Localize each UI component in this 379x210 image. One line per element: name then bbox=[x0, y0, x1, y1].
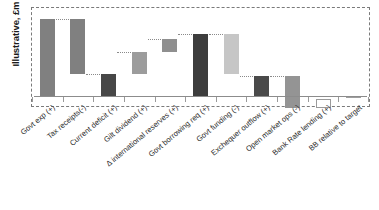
bar-6 bbox=[224, 34, 239, 75]
x-tick-10 bbox=[338, 97, 339, 102]
bar-5 bbox=[193, 34, 208, 97]
x-label-6: Govt funding (-) bbox=[195, 103, 241, 144]
x-label-1: Tax receipts(-) bbox=[45, 103, 88, 141]
x-label-10: BB relative to target bbox=[307, 103, 364, 153]
connector-0 bbox=[56, 19, 70, 20]
bar-8 bbox=[285, 76, 300, 108]
bar-9 bbox=[316, 99, 331, 108]
plot-area bbox=[32, 8, 369, 106]
x-tick-8 bbox=[277, 97, 278, 102]
x-tick-7 bbox=[246, 97, 247, 102]
bar-0 bbox=[40, 19, 55, 97]
plot-frame bbox=[31, 7, 370, 107]
x-tick-4 bbox=[155, 97, 156, 102]
x-tick-9 bbox=[308, 97, 309, 102]
connector-3 bbox=[148, 39, 162, 40]
x-label-5: Govt borrowing req (+) bbox=[146, 103, 210, 159]
x-label-9: Bank Rate lending (+) bbox=[271, 103, 333, 157]
x-tick-1 bbox=[63, 97, 64, 102]
bar-1 bbox=[70, 19, 85, 74]
waterfall-chart: Illustrative, £m Govt exp (+)Tax receipt… bbox=[0, 0, 379, 210]
y-axis-title: Illustrative, £m bbox=[8, 0, 24, 80]
x-label-0: Govt exp (+) bbox=[19, 103, 57, 137]
x-tick-5 bbox=[185, 97, 186, 102]
x-tick-6 bbox=[216, 97, 217, 102]
x-tick-11 bbox=[368, 97, 369, 102]
x-label-4: Δ international reserves (+) bbox=[104, 103, 179, 168]
x-label-8: Open market ops (-) bbox=[244, 103, 302, 154]
bar-4 bbox=[162, 39, 177, 52]
x-label-7: Exchequer outflow (+) bbox=[209, 103, 272, 158]
bar-7 bbox=[254, 76, 269, 97]
x-tick-3 bbox=[124, 97, 125, 102]
connector-5 bbox=[209, 34, 223, 35]
connector-4 bbox=[178, 34, 192, 35]
zero-axis-line bbox=[34, 96, 367, 97]
connector-2 bbox=[117, 52, 131, 53]
connector-7 bbox=[270, 76, 284, 77]
connector-1 bbox=[86, 74, 100, 75]
x-label-3: Gilt dividend (+) bbox=[102, 103, 149, 144]
connector-6 bbox=[240, 76, 254, 77]
x-label-2: Current deficit (+) bbox=[67, 103, 118, 148]
x-tick-2 bbox=[93, 97, 94, 102]
x-tick-0 bbox=[32, 97, 33, 102]
bar-3 bbox=[132, 52, 147, 75]
bar-2 bbox=[101, 74, 116, 97]
